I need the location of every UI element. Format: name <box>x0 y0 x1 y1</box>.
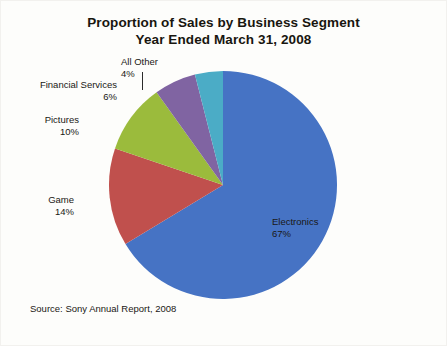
chart-page: Proportion of Sales by Business Segment … <box>0 0 447 346</box>
pie-label-all-other: All Other 4% <box>121 56 158 80</box>
pie-label-game-text: Game <box>48 194 74 205</box>
pie-label-electronics-pct: 67% <box>272 228 318 240</box>
pie-chart-final <box>107 69 339 301</box>
chart-source-note: Source: Sony Annual Report, 2008 <box>30 303 176 314</box>
pie-chart: Electronics 67% Game 14% Pictures 10% Fi… <box>0 0 447 346</box>
pie-label-game: Game 14% <box>48 194 74 218</box>
pie-label-pictures: Pictures 10% <box>45 114 79 138</box>
pie-label-financial-services-text: Financial Services <box>40 79 117 90</box>
pie-label-financial-services: Financial Services 6% <box>40 79 117 103</box>
pie-label-game-pct: 14% <box>48 206 74 218</box>
pie-label-financial-services-pct: 6% <box>40 91 117 103</box>
pie-label-electronics-text: Electronics <box>272 216 318 227</box>
pie-label-pictures-pct: 10% <box>45 126 79 138</box>
pie-label-pictures-text: Pictures <box>45 114 79 125</box>
pie-label-all-other-text: All Other <box>121 56 158 67</box>
pie-label-electronics: Electronics 67% <box>272 216 318 240</box>
pie-label-all-other-pct: 4% <box>121 68 158 80</box>
